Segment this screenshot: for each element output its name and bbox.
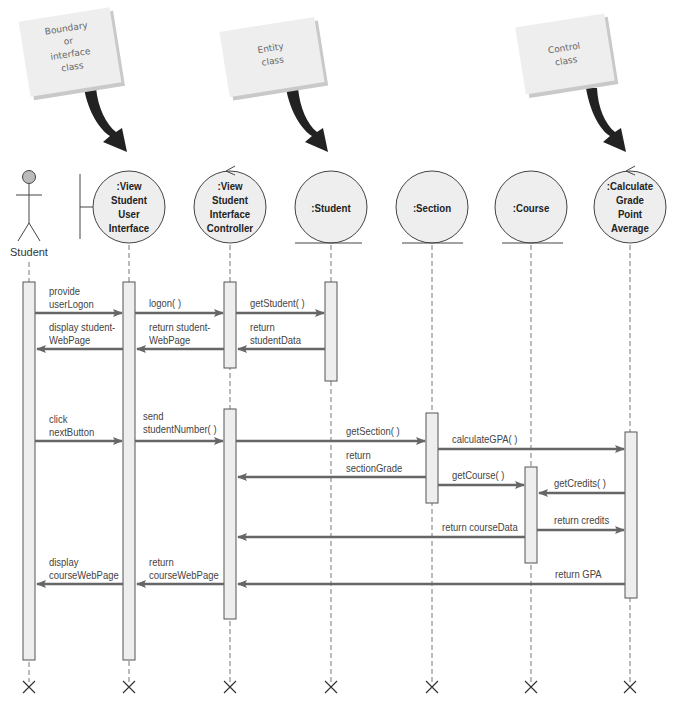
destruction-x-icons — [23, 681, 636, 693]
callout-arrows — [84, 88, 626, 152]
message-text: getCourse( ) — [452, 469, 505, 482]
message-getcredits: getCredits( ) — [554, 477, 606, 490]
actor-label: Student — [10, 246, 48, 258]
message-text: provide — [49, 285, 94, 298]
message-text: getSection( ) — [346, 425, 400, 438]
message-text: sectionGrade — [346, 462, 402, 475]
message-send-studentnumber: send studentNumber( ) — [143, 410, 217, 436]
message-return-credits: return credits — [554, 514, 609, 527]
object-label-line: User — [97, 207, 160, 221]
object-label-line: Interface — [97, 221, 160, 235]
message-getsection: getSection( ) — [346, 425, 400, 438]
message-return-sectiongrade: return sectionGrade — [346, 449, 402, 475]
callout-arrow-boundary-icon — [84, 88, 127, 152]
object-section: :Section — [400, 201, 463, 215]
message-text: display — [49, 556, 119, 569]
message-text: WebPage — [49, 334, 115, 347]
message-display-studentwebpage: display student- WebPage — [49, 321, 115, 347]
object-label-line: :Calculate — [598, 179, 661, 193]
message-text: courseWebPage — [149, 569, 219, 582]
object-label-line: Interface — [198, 207, 261, 221]
message-text: userLogon — [49, 298, 94, 311]
message-text: getStudent( ) — [250, 297, 305, 310]
message-logon: logon( ) — [149, 297, 181, 310]
message-text: click — [49, 413, 94, 426]
object-label-line: :View — [198, 179, 261, 193]
message-text: calculateGPA( ) — [452, 433, 517, 446]
message-text: send — [143, 410, 217, 423]
object-label-line: Average — [598, 221, 661, 235]
object-student: :Student — [299, 201, 362, 215]
object-label-line: Point — [598, 207, 661, 221]
message-text: return GPA — [555, 568, 602, 581]
message-return-coursedata: return courseData — [442, 521, 518, 534]
message-text: getCredits( ) — [554, 477, 606, 490]
message-text: studentData — [250, 334, 301, 347]
object-label-line: Controller — [198, 221, 261, 235]
sequence-diagram-canvas — [0, 0, 673, 708]
object-calculate-grade-point-average: :Calculate Grade Point Average — [598, 179, 661, 235]
object-label-line: :Section — [400, 201, 463, 215]
message-text: return courseData — [442, 521, 518, 534]
message-text: return student- — [149, 321, 210, 334]
message-return-studentdata: return studentData — [250, 321, 301, 347]
message-text: display student- — [49, 321, 115, 334]
message-provide-userlogon: provide userLogon — [49, 285, 94, 311]
message-text: nextButton — [49, 426, 94, 439]
message-text: WebPage — [149, 334, 210, 347]
object-label-line: Grade — [598, 193, 661, 207]
message-text: return — [250, 321, 301, 334]
message-text: logon( ) — [149, 297, 181, 310]
callout-arrow-entity-icon — [286, 88, 328, 152]
note-boundary-class: Boundary or interface class — [19, 7, 122, 96]
object-circles — [93, 171, 666, 243]
message-getstudent: getStudent( ) — [250, 297, 305, 310]
object-label-line: :View — [97, 179, 160, 193]
message-return-gpa: return GPA — [555, 568, 602, 581]
object-course: :Course — [499, 201, 562, 215]
message-calculategpa: calculateGPA( ) — [452, 433, 517, 446]
message-text: studentNumber( ) — [143, 423, 217, 436]
message-return-coursewebpage: return courseWebPage — [149, 556, 219, 582]
message-text: return credits — [554, 514, 609, 527]
note-control-class: Control class — [515, 13, 615, 94]
object-label-line: :Student — [299, 201, 362, 215]
message-text: return — [346, 449, 402, 462]
actor-stick-figure-icon — [16, 171, 42, 242]
boundary-marker-icon — [80, 174, 93, 239]
message-click-nextbutton: click nextButton — [49, 413, 94, 439]
object-label-line: Student — [97, 193, 160, 207]
message-text: courseWebPage — [49, 569, 119, 582]
object-label-line: :Course — [499, 201, 562, 215]
message-return-studentwebpage: return student- WebPage — [149, 321, 210, 347]
object-view-student-interface-controller: :View Student Interface Controller — [198, 179, 261, 235]
object-label-line: Student — [198, 193, 261, 207]
message-display-coursewebpage: display courseWebPage — [49, 556, 119, 582]
callout-arrow-control-icon — [586, 88, 626, 152]
message-text: return — [149, 556, 219, 569]
object-view-student-user-interface: :View Student User Interface — [97, 179, 160, 235]
message-getcourse: getCourse( ) — [452, 469, 505, 482]
